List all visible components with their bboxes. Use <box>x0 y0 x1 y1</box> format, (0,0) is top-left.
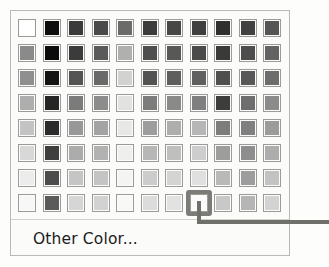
color-swatch-fill <box>94 71 108 85</box>
color-swatch[interactable] <box>116 44 134 62</box>
color-swatch[interactable] <box>92 144 110 162</box>
color-swatch[interactable] <box>214 94 232 112</box>
color-swatch[interactable] <box>165 144 183 162</box>
color-swatch-fill <box>241 71 255 85</box>
color-swatch[interactable] <box>165 194 183 212</box>
color-swatch[interactable] <box>214 144 232 162</box>
color-swatch[interactable] <box>18 94 36 112</box>
color-swatch[interactable] <box>214 19 232 37</box>
color-swatch[interactable] <box>92 44 110 62</box>
color-swatch[interactable] <box>92 19 110 37</box>
color-swatch[interactable] <box>239 19 257 37</box>
color-swatch[interactable] <box>239 94 257 112</box>
color-swatch[interactable] <box>239 169 257 187</box>
color-swatch[interactable] <box>165 44 183 62</box>
color-swatch[interactable] <box>214 194 232 212</box>
color-swatch-fill <box>118 146 132 160</box>
color-swatch[interactable] <box>116 169 134 187</box>
color-swatch[interactable] <box>43 169 61 187</box>
color-swatch-fill <box>143 21 157 35</box>
color-swatch[interactable] <box>43 94 61 112</box>
color-swatch[interactable] <box>190 94 208 112</box>
color-swatch[interactable] <box>190 69 208 87</box>
color-swatch-fill <box>69 196 83 210</box>
color-swatch[interactable] <box>141 69 159 87</box>
color-swatch[interactable] <box>165 94 183 112</box>
color-swatch[interactable] <box>92 119 110 137</box>
color-swatch[interactable] <box>141 19 159 37</box>
color-swatch[interactable] <box>18 169 36 187</box>
color-swatch-fill <box>167 196 181 210</box>
color-swatch[interactable] <box>239 194 257 212</box>
color-swatch[interactable] <box>263 44 281 62</box>
color-swatch[interactable] <box>43 44 61 62</box>
color-swatch[interactable] <box>165 119 183 137</box>
color-swatch[interactable] <box>92 94 110 112</box>
color-swatch[interactable] <box>116 144 134 162</box>
color-swatch[interactable] <box>18 69 36 87</box>
color-swatch-fill <box>69 71 83 85</box>
color-swatch[interactable] <box>214 44 232 62</box>
color-swatch[interactable] <box>116 69 134 87</box>
color-swatch[interactable] <box>92 69 110 87</box>
color-swatch[interactable] <box>67 44 85 62</box>
color-swatch[interactable] <box>116 94 134 112</box>
color-swatch[interactable] <box>190 119 208 137</box>
color-swatch[interactable] <box>67 169 85 187</box>
color-swatch-fill <box>20 21 34 35</box>
color-swatch[interactable] <box>43 19 61 37</box>
color-swatch[interactable] <box>67 69 85 87</box>
color-swatch[interactable] <box>190 144 208 162</box>
color-swatch[interactable] <box>214 169 232 187</box>
color-swatch[interactable] <box>263 169 281 187</box>
color-swatch-fill <box>69 171 83 185</box>
callout-pointer-stub <box>197 201 201 222</box>
color-swatch[interactable] <box>67 19 85 37</box>
color-swatch[interactable] <box>116 119 134 137</box>
color-swatch[interactable] <box>92 194 110 212</box>
color-swatch[interactable] <box>18 144 36 162</box>
color-swatch[interactable] <box>67 144 85 162</box>
color-swatch[interactable] <box>263 19 281 37</box>
scanned-page-background: Other Color... <box>0 0 329 267</box>
color-swatch[interactable] <box>263 194 281 212</box>
color-swatch[interactable] <box>239 44 257 62</box>
color-swatch[interactable] <box>18 119 36 137</box>
color-swatch[interactable] <box>190 169 208 187</box>
color-swatch[interactable] <box>141 119 159 137</box>
color-swatch[interactable] <box>18 19 36 37</box>
color-swatch[interactable] <box>92 169 110 187</box>
color-swatch[interactable] <box>116 19 134 37</box>
color-swatch[interactable] <box>214 119 232 137</box>
color-swatch[interactable] <box>67 194 85 212</box>
color-swatch[interactable] <box>190 44 208 62</box>
color-swatch[interactable] <box>165 69 183 87</box>
color-swatch[interactable] <box>18 44 36 62</box>
color-swatch[interactable] <box>263 144 281 162</box>
color-swatch[interactable] <box>263 119 281 137</box>
color-swatch[interactable] <box>239 144 257 162</box>
color-swatch[interactable] <box>239 69 257 87</box>
other-color-menu-item[interactable]: Other Color... <box>11 220 289 257</box>
color-swatch-fill <box>20 96 34 110</box>
color-swatch[interactable] <box>67 119 85 137</box>
color-swatch[interactable] <box>165 19 183 37</box>
color-swatch[interactable] <box>43 69 61 87</box>
color-swatch[interactable] <box>67 94 85 112</box>
color-swatch[interactable] <box>43 194 61 212</box>
color-swatch[interactable] <box>18 194 36 212</box>
color-swatch[interactable] <box>141 169 159 187</box>
color-swatch[interactable] <box>141 94 159 112</box>
color-swatch[interactable] <box>190 19 208 37</box>
color-swatch[interactable] <box>43 144 61 162</box>
color-swatch[interactable] <box>214 69 232 87</box>
color-swatch[interactable] <box>141 144 159 162</box>
color-swatch[interactable] <box>263 69 281 87</box>
color-swatch[interactable] <box>239 119 257 137</box>
color-swatch[interactable] <box>141 194 159 212</box>
color-swatch[interactable] <box>141 44 159 62</box>
color-swatch[interactable] <box>116 194 134 212</box>
color-swatch[interactable] <box>263 94 281 112</box>
color-swatch[interactable] <box>43 119 61 137</box>
color-swatch[interactable] <box>165 169 183 187</box>
